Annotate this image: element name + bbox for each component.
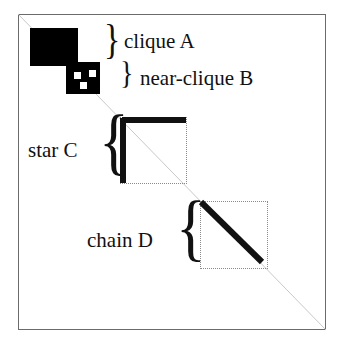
near-clique-b-hole-3 — [80, 82, 87, 89]
near-clique-b-block — [66, 62, 100, 94]
near-clique-b-hole-2 — [89, 70, 96, 77]
brace-near-clique-b: } — [120, 58, 133, 90]
label-near-clique-b: near-clique B — [140, 68, 253, 89]
label-clique-a: clique A — [124, 31, 195, 52]
brace-clique-a: } — [104, 18, 120, 61]
chain-d-region-outline — [200, 201, 268, 269]
brace-star-c: { — [99, 104, 129, 177]
brace-chain-d: { — [176, 190, 206, 263]
label-star-c: star C — [28, 140, 78, 161]
star-c-horizontal-arm — [122, 117, 186, 123]
clique-a-block — [30, 28, 78, 66]
label-chain-d: chain D — [87, 230, 153, 251]
star-c-region-outline — [120, 117, 187, 184]
near-clique-b-hole-1 — [74, 72, 81, 79]
figure-canvas: } clique A } near-clique B { star C { ch… — [0, 0, 341, 344]
